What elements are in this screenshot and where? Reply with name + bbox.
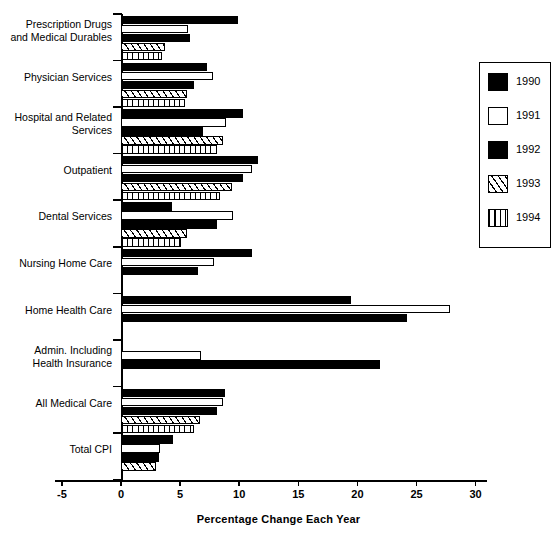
x-tick-label: 25 xyxy=(402,488,432,500)
bar-1993-9 xyxy=(121,416,200,424)
bar-row xyxy=(0,435,557,443)
bar-1991-5 xyxy=(121,211,233,219)
bar-row xyxy=(0,342,557,350)
bar-row xyxy=(0,332,557,340)
legend-item-1993: 1993 xyxy=(488,175,550,195)
bar-1992-10 xyxy=(121,453,159,461)
bar-1992-4 xyxy=(121,174,243,182)
bar-1991-9 xyxy=(121,398,223,406)
bar-1992-1 xyxy=(121,34,190,42)
x-tick-label: 10 xyxy=(224,488,254,500)
bar-row xyxy=(0,444,557,452)
bar-row xyxy=(0,90,557,98)
x-tick xyxy=(298,480,300,486)
bar-row xyxy=(0,127,557,135)
legend-swatch-1994 xyxy=(488,209,508,227)
x-tick xyxy=(179,480,181,486)
legend: 19901991199219931994 xyxy=(479,62,551,248)
bar-1992-7 xyxy=(121,314,407,322)
bar-1992-6 xyxy=(121,267,198,275)
bar-1990-5 xyxy=(121,202,172,210)
bar-row xyxy=(0,174,557,182)
bar-row xyxy=(0,145,557,153)
x-tick-label: 0 xyxy=(106,488,136,500)
bar-1993-5 xyxy=(121,229,187,237)
bar-row xyxy=(0,43,557,51)
x-tick-label: 30 xyxy=(461,488,491,500)
bar-1991-1 xyxy=(121,25,188,33)
bar-row xyxy=(0,425,557,433)
x-tick-label: 20 xyxy=(342,488,372,500)
x-tick xyxy=(120,480,122,486)
bar-row xyxy=(0,314,557,322)
bar-row xyxy=(0,276,557,284)
bar-1990-4 xyxy=(121,156,258,164)
bar-row xyxy=(0,351,557,359)
category-tick xyxy=(113,13,122,15)
legend-label-1994: 1994 xyxy=(516,211,540,223)
x-tick-label: 5 xyxy=(165,488,195,500)
bar-row xyxy=(0,285,557,293)
bar-1990-9 xyxy=(121,389,225,397)
bar-row xyxy=(0,109,557,117)
bar-row xyxy=(0,81,557,89)
legend-label-1991: 1991 xyxy=(516,109,540,121)
bar-row xyxy=(0,305,557,313)
bar-row xyxy=(0,192,557,200)
bar-row xyxy=(0,360,557,368)
legend-swatch-1993 xyxy=(488,175,508,193)
legend-swatch-1992 xyxy=(488,141,508,159)
bar-row xyxy=(0,389,557,397)
bar-row xyxy=(0,211,557,219)
bar-1990-1 xyxy=(121,16,238,24)
x-axis-title: Percentage Change Each Year xyxy=(0,513,557,525)
bar-1991-7 xyxy=(121,305,450,313)
x-tick xyxy=(357,480,359,486)
bar-1994-5 xyxy=(121,238,181,246)
bar-chart: -5051015202530 Prescription Drugs and Me… xyxy=(0,0,557,538)
bar-row xyxy=(0,267,557,275)
bar-row xyxy=(0,238,557,246)
bar-1991-10 xyxy=(121,444,160,452)
bar-1993-3 xyxy=(121,136,223,144)
legend-swatch-1990 xyxy=(488,73,508,91)
bar-1990-2 xyxy=(121,63,207,71)
x-tick xyxy=(61,480,63,486)
bar-row xyxy=(0,258,557,266)
bar-1994-4 xyxy=(121,192,220,200)
legend-item-1990: 1990 xyxy=(488,73,550,93)
bar-1994-2 xyxy=(121,99,185,107)
bar-row xyxy=(0,229,557,237)
bar-row xyxy=(0,136,557,144)
bar-1993-4 xyxy=(121,183,232,191)
x-tick xyxy=(475,480,477,486)
bar-row xyxy=(0,471,557,479)
bar-row xyxy=(0,63,557,71)
bar-row xyxy=(0,378,557,386)
bar-1993-1 xyxy=(121,43,165,51)
legend-item-1994: 1994 xyxy=(488,209,550,229)
legend-label-1990: 1990 xyxy=(516,75,540,87)
bar-1993-2 xyxy=(121,90,187,98)
bar-row xyxy=(0,453,557,461)
bar-1991-3 xyxy=(121,118,226,126)
bar-1994-3 xyxy=(121,145,217,153)
bar-1994-9 xyxy=(121,425,194,433)
bar-row xyxy=(0,34,557,42)
bar-row xyxy=(0,323,557,331)
bar-row xyxy=(0,416,557,424)
bar-row xyxy=(0,16,557,24)
bar-row xyxy=(0,183,557,191)
bar-row xyxy=(0,156,557,164)
bar-1992-2 xyxy=(121,81,194,89)
bar-1991-4 xyxy=(121,165,252,173)
bar-row xyxy=(0,165,557,173)
bar-1992-8 xyxy=(121,360,380,368)
bar-1990-3 xyxy=(121,109,243,117)
bar-1992-5 xyxy=(121,220,217,228)
bar-1992-9 xyxy=(121,407,217,415)
bar-row xyxy=(0,398,557,406)
legend-item-1992: 1992 xyxy=(488,141,550,161)
x-tick xyxy=(238,480,240,486)
bar-row xyxy=(0,99,557,107)
